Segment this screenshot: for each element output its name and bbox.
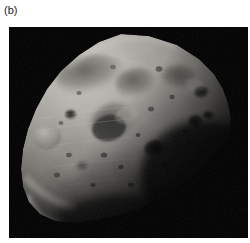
panel-label: (b) (4, 4, 17, 17)
astronomical-image (9, 27, 248, 238)
phobos-image-svg (9, 27, 248, 238)
figure-panel: (b) (0, 0, 250, 243)
image-grain-overlay (9, 27, 248, 238)
